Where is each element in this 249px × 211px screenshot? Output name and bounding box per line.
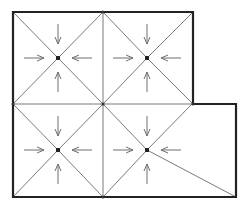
center-dot [56,56,60,60]
junction-node [12,103,15,106]
cell-diagonal [58,104,103,150]
cell-diagonal [13,150,58,197]
cell-diagonal [147,58,193,104]
cell-diagonal [58,150,103,197]
cell-diagonal [103,58,147,104]
cell-diagonal [147,150,236,197]
cell-diagonal [13,104,58,150]
junction-node [192,103,195,106]
junction-node [102,11,105,14]
center-dot [145,148,149,152]
center-dot [145,56,149,60]
junction-node [102,196,105,199]
cell-diagonal [103,12,147,58]
cell-diagonal [13,58,58,104]
diagram-canvas [0,0,249,211]
cell-diagonal [58,58,103,104]
center-dot [56,148,60,152]
cell-diagonal [147,12,193,58]
cell-diagonal [103,150,147,197]
cell-diagonal [147,104,192,150]
junction-node [102,103,105,106]
cell-diagonal [58,12,103,58]
cell-diagonal [103,104,147,150]
cell-diagonal [13,12,58,58]
